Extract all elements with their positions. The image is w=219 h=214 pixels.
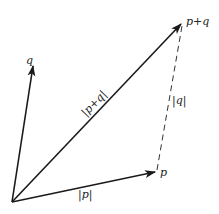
vector-diagram: q p p+q |p+q| |q| |p| — [0, 0, 219, 214]
vector-q-arrow — [12, 66, 33, 202]
label-p-plus-q: p+q — [186, 15, 209, 28]
label-mag-q: |q| — [172, 94, 186, 108]
label-q: q — [26, 54, 33, 67]
label-mag-p: |p| — [78, 188, 92, 202]
vector-sum-arrow — [12, 24, 181, 202]
label-p: p — [160, 166, 167, 179]
